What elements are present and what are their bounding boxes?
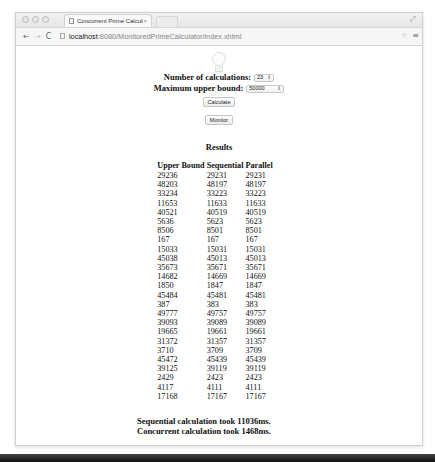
upper-bound-cell: 4117 bbox=[156, 383, 205, 392]
table-row: 405214051940519 bbox=[156, 208, 274, 217]
table-row: 454844548145481 bbox=[156, 291, 274, 300]
sequential-cell: 40519 bbox=[206, 208, 245, 217]
sequential-cell: 48197 bbox=[206, 180, 245, 189]
parallel-cell: 15031 bbox=[244, 245, 273, 254]
page-icon bbox=[60, 33, 65, 39]
calculate-button[interactable]: Calculate bbox=[203, 97, 236, 107]
table-row: 482034819748197 bbox=[156, 180, 274, 189]
menu-icon[interactable]: ≡ bbox=[412, 31, 419, 40]
max-upper-bound-select[interactable]: 50000 ⇕ bbox=[246, 85, 284, 93]
sequential-cell: 39089 bbox=[206, 318, 245, 327]
close-window-button[interactable] bbox=[22, 16, 29, 23]
table-row: 185018471847 bbox=[156, 281, 274, 290]
column-header-sequential: Sequential bbox=[206, 161, 245, 171]
upper-bound-cell: 15033 bbox=[156, 245, 205, 254]
new-tab-button[interactable] bbox=[156, 16, 178, 28]
sequential-cell: 17167 bbox=[206, 392, 245, 401]
address-bar[interactable]: localhost :8080/MonitoredPrimeCalculator… bbox=[60, 30, 392, 42]
lightbulb-icon bbox=[212, 52, 226, 72]
back-arrow-icon[interactable]: ← bbox=[21, 32, 32, 41]
sequential-cell: 5623 bbox=[206, 217, 245, 226]
parallel-cell: 4111 bbox=[244, 383, 273, 392]
parallel-cell: 14669 bbox=[244, 272, 273, 281]
parallel-cell: 17167 bbox=[244, 392, 273, 401]
upper-bound-cell: 11653 bbox=[156, 199, 205, 208]
page-content: Number of calculations: 23 ⇕ Maximum upp… bbox=[16, 52, 422, 436]
upper-bound-cell: 14682 bbox=[156, 272, 205, 281]
table-row: 171681716717167 bbox=[156, 392, 274, 401]
browser-tab[interactable]: Concurrent Prime Calculat × bbox=[64, 14, 152, 27]
sequential-cell: 39119 bbox=[206, 364, 245, 373]
upper-bound-cell: 387 bbox=[156, 300, 205, 309]
minimize-window-button[interactable] bbox=[32, 16, 39, 23]
sequential-cell: 19661 bbox=[206, 327, 245, 336]
sequential-cell: 45013 bbox=[206, 254, 245, 263]
upper-bound-cell: 33234 bbox=[156, 189, 205, 198]
table-row: 146821466914669 bbox=[156, 272, 274, 281]
parallel-cell: 35671 bbox=[244, 263, 273, 272]
column-header-upper-bound: Upper Bound bbox=[156, 161, 205, 171]
parallel-cell: 8501 bbox=[244, 226, 273, 235]
sequential-cell: 3709 bbox=[206, 346, 245, 355]
upper-bound-cell: 3710 bbox=[156, 346, 205, 355]
table-row: 391253911939119 bbox=[156, 364, 274, 373]
url-host: localhost bbox=[69, 32, 98, 41]
sequential-cell: 31357 bbox=[206, 337, 245, 346]
num-calculations-label: Number of calculations: bbox=[164, 72, 251, 83]
desktop-edge bbox=[0, 454, 435, 462]
parallel-cell: 19661 bbox=[244, 327, 273, 336]
table-row: 390933908939089 bbox=[156, 318, 274, 327]
fullscreen-icon[interactable]: ⤢ bbox=[410, 15, 416, 23]
upper-bound-cell: 40521 bbox=[156, 208, 205, 217]
num-calculations-select[interactable]: 23 ⇕ bbox=[254, 74, 274, 82]
parallel-cell: 167 bbox=[244, 235, 273, 244]
forward-arrow-icon[interactable]: → bbox=[32, 32, 43, 41]
upper-bound-cell: 167 bbox=[156, 235, 205, 244]
parallel-cell: 11633 bbox=[244, 199, 273, 208]
parallel-cell: 5623 bbox=[244, 217, 273, 226]
table-row: 167167167 bbox=[156, 235, 274, 244]
sequential-cell: 1847 bbox=[206, 281, 245, 290]
upper-bound-cell: 45484 bbox=[156, 291, 205, 300]
parallel-cell: 48197 bbox=[244, 180, 273, 189]
table-row: 116531163311633 bbox=[156, 199, 274, 208]
reload-icon[interactable]: C bbox=[43, 32, 54, 41]
title-bar: Concurrent Prime Calculat × ⤢ bbox=[16, 13, 422, 28]
bookmark-star-icon[interactable]: ☆ bbox=[401, 31, 408, 40]
table-row: 850685018501 bbox=[156, 226, 274, 235]
upper-bound-cell: 49777 bbox=[156, 309, 205, 318]
parallel-cell: 39089 bbox=[244, 318, 273, 327]
upper-bound-cell: 31372 bbox=[156, 337, 205, 346]
table-row: 150331503115031 bbox=[156, 245, 274, 254]
sequential-cell: 2423 bbox=[206, 373, 245, 382]
results-heading: Results bbox=[16, 142, 422, 152]
sequential-cell: 167 bbox=[206, 235, 245, 244]
url-path: :8080/MonitoredPrimeCalculator/index.xht… bbox=[98, 32, 242, 41]
parallel-cell: 2423 bbox=[244, 373, 273, 382]
upper-bound-cell: 1850 bbox=[156, 281, 205, 290]
table-row: 313723135731357 bbox=[156, 337, 274, 346]
parallel-cell: 33223 bbox=[244, 189, 273, 198]
sequential-cell: 14669 bbox=[206, 272, 245, 281]
parallel-cell: 45439 bbox=[244, 355, 273, 364]
upper-bound-cell: 35673 bbox=[156, 263, 205, 272]
parallel-cell: 3709 bbox=[244, 346, 273, 355]
sequential-cell: 4111 bbox=[206, 383, 245, 392]
close-tab-icon[interactable]: × bbox=[143, 18, 147, 24]
monitor-button[interactable]: Monitor bbox=[205, 115, 233, 125]
max-upper-bound-label: Maximum upper bound: bbox=[154, 83, 244, 94]
sequential-cell: 45439 bbox=[206, 355, 245, 364]
sequential-cell: 49757 bbox=[206, 309, 245, 318]
table-row: 387383383 bbox=[156, 300, 274, 309]
table-row: 497774975749757 bbox=[156, 309, 274, 318]
tab-title: Concurrent Prime Calculat bbox=[77, 18, 143, 24]
upper-bound-cell: 45038 bbox=[156, 254, 205, 263]
parallel-cell: 383 bbox=[244, 300, 273, 309]
select-arrows-icon: ⇕ bbox=[267, 72, 271, 83]
max-upper-bound-row: Maximum upper bound: 50000 ⇕ bbox=[16, 83, 422, 94]
zoom-window-button[interactable] bbox=[42, 16, 49, 23]
table-row: 196651966119661 bbox=[156, 327, 274, 336]
table-row: 332343322333223 bbox=[156, 189, 274, 198]
upper-bound-cell: 17168 bbox=[156, 392, 205, 401]
table-row: 563656235623 bbox=[156, 217, 274, 226]
